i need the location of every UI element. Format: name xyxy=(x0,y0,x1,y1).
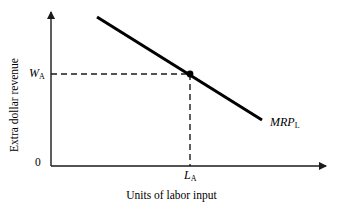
y-tick-label-wage: WA xyxy=(29,67,45,81)
y-tick-label-subscript: A xyxy=(39,72,45,81)
equilibrium-point-marker xyxy=(187,71,194,78)
x-tick-label-subscript: A xyxy=(191,174,197,183)
x-tick-label-labor: LA xyxy=(184,169,197,183)
origin-label: 0 xyxy=(35,157,41,169)
x-axis-title: Units of labor input xyxy=(0,190,343,202)
y-axis-title-container: Extra dollar revenue xyxy=(0,0,30,209)
mrp-labor-figure: Extra dollar revenue 0 WA LA MRPL Units … xyxy=(0,0,343,209)
chart-canvas xyxy=(0,0,343,209)
x-tick-label-symbol: L xyxy=(184,168,191,182)
y-tick-label-symbol: W xyxy=(29,66,39,80)
mrp-curve-label-symbol: MRP xyxy=(270,115,295,129)
mrp-curve-label: MRPL xyxy=(270,116,300,130)
mrp-curve-line xyxy=(97,17,262,120)
y-axis-title: Extra dollar revenue xyxy=(9,58,21,152)
mrp-curve-label-subscript: L xyxy=(295,121,300,130)
